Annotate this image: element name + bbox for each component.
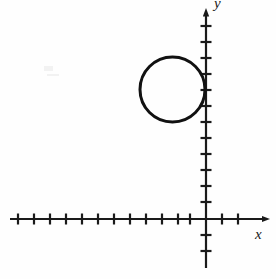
x-axis-label: x	[255, 226, 262, 243]
y-axis-label: y	[214, 0, 221, 12]
y-axis-group	[201, 16, 212, 268]
x-axis-group	[10, 214, 262, 225]
graph-canvas	[0, 0, 276, 279]
coordinate-plane-figure: y x	[0, 0, 276, 279]
circle-curve	[140, 57, 205, 122]
